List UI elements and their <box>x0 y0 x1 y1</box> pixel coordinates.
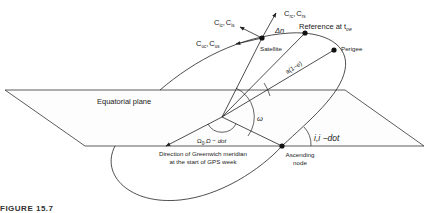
equatorial-plane-label: Equatorial plane <box>97 97 151 106</box>
perigee-point <box>331 47 336 52</box>
greenwich-label-line2: at the start of GPS week <box>169 158 237 165</box>
c-uc-us-label: Cuc,Cus <box>196 39 220 49</box>
inclination-label: i,i −dot <box>314 133 340 143</box>
orbit-diagram: Equatorial plane Satellite Reference at … <box>0 0 430 213</box>
along-track-arrow <box>236 38 262 44</box>
satellite-label: Satellite <box>260 45 283 52</box>
omega-label: ω <box>257 114 263 123</box>
ascending-node-point <box>279 143 284 148</box>
delta-n-label: Δn <box>274 26 284 35</box>
semi-axis-label: a(1−e) <box>284 60 303 75</box>
ascending-node-label-line1: Ascending <box>286 151 315 158</box>
figure-caption: FIGURE 15.7 <box>0 204 54 213</box>
ascending-node-label-line2: node <box>293 159 307 166</box>
c-ic-is-label: Cic,Cis <box>214 18 235 28</box>
radial-arrow <box>262 13 276 38</box>
greenwich-label-line1: Direction of Greenwich meridian <box>159 150 248 157</box>
cross-track-arrow <box>240 27 262 38</box>
perigee-label: Perigee <box>341 45 363 52</box>
reference-label: Reference at toe <box>299 22 352 32</box>
c-rc-rs-label: Crc,Crs <box>284 9 306 19</box>
satellite-point <box>259 35 264 40</box>
reference-point <box>302 30 307 35</box>
